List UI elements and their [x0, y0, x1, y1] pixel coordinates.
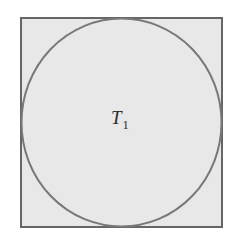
geometry-figure: T1 — [0, 0, 239, 242]
figure-canvas: T1 — [0, 0, 239, 242]
region-label-base: T — [111, 107, 123, 128]
region-label-subscript: 1 — [123, 118, 129, 132]
